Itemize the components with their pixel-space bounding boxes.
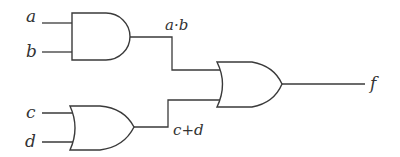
label-and-output: a·b <box>165 16 188 34</box>
label-output-f: f <box>368 73 379 93</box>
label-input-a: a <box>26 6 36 26</box>
label-input-c: c <box>26 102 36 122</box>
or-gate-lower <box>70 106 134 150</box>
label-input-d: d <box>25 131 36 151</box>
label-input-b: b <box>26 41 37 61</box>
and-gate <box>72 13 130 60</box>
logic-circuit-diagram: a b c d a·b c+d f <box>0 0 400 157</box>
or-gate-final <box>217 62 282 107</box>
label-or-output: c+d <box>173 121 204 139</box>
wire-and-output <box>130 37 223 70</box>
